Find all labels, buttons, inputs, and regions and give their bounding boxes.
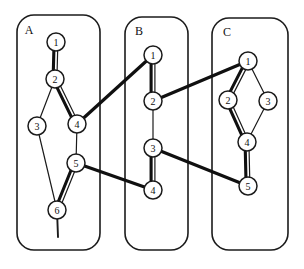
node-label-b4: 4 xyxy=(151,185,156,196)
node-b4[interactable]: 4 xyxy=(144,181,162,199)
node-label-c1: 1 xyxy=(246,56,251,67)
node-label-a6: 6 xyxy=(55,205,60,216)
node-label-a5: 5 xyxy=(74,158,79,169)
node-label-b1: 1 xyxy=(151,50,156,61)
node-label-c3: 3 xyxy=(266,96,271,107)
node-label-a1: 1 xyxy=(54,37,59,48)
node-c4[interactable]: 4 xyxy=(238,133,256,151)
node-a4[interactable]: 4 xyxy=(68,115,86,133)
node-label-c5: 5 xyxy=(246,181,251,192)
node-c1[interactable]: 1 xyxy=(239,52,257,70)
node-a1[interactable]: 1 xyxy=(47,33,65,51)
node-a3[interactable]: 3 xyxy=(28,117,46,135)
node-a2[interactable]: 2 xyxy=(46,70,64,88)
graph-diagram: 123456123412345 ABC xyxy=(0,0,304,269)
node-b1[interactable]: 1 xyxy=(144,46,162,64)
node-b2[interactable]: 2 xyxy=(144,92,162,110)
panel-label-b: B xyxy=(135,24,143,38)
node-label-b2: 2 xyxy=(151,96,156,107)
node-label-c2: 2 xyxy=(226,95,231,106)
node-b3[interactable]: 3 xyxy=(144,139,162,157)
panel-label-c: C xyxy=(223,25,231,39)
node-label-c4: 4 xyxy=(245,137,250,148)
node-label-b3: 3 xyxy=(151,143,156,154)
node-c2[interactable]: 2 xyxy=(219,91,237,109)
diagram-canvas: 123456123412345 ABC xyxy=(0,0,304,269)
panel-label-a: A xyxy=(25,23,34,37)
node-c3[interactable]: 3 xyxy=(259,92,277,110)
node-a5[interactable]: 5 xyxy=(67,154,85,172)
node-label-a4: 4 xyxy=(75,119,80,130)
node-a6[interactable]: 6 xyxy=(48,201,66,219)
node-label-a3: 3 xyxy=(35,121,40,132)
node-label-a2: 2 xyxy=(53,74,58,85)
node-c5[interactable]: 5 xyxy=(239,177,257,195)
